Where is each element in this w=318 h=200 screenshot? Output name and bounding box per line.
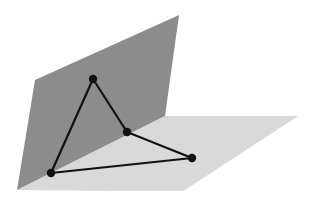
- vertex-bottom-left: [47, 169, 55, 177]
- vertex-fold: [123, 128, 131, 136]
- dihedral-diagram: [0, 0, 318, 200]
- vertex-top: [89, 75, 97, 83]
- vertex-right: [188, 154, 196, 162]
